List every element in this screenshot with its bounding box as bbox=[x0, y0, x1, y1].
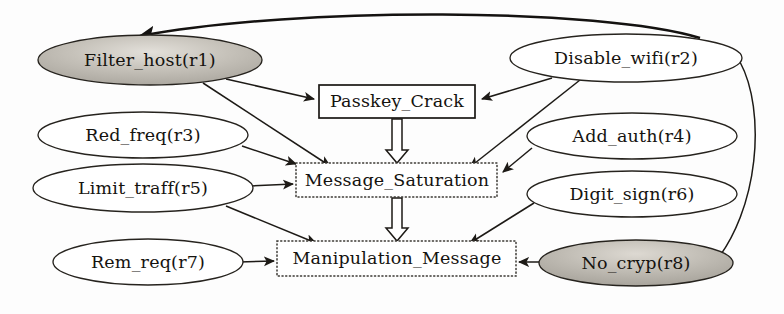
edge-message-saturation-to-manipulation-message bbox=[386, 198, 408, 241]
node-label-r5: Limit_traff(r5) bbox=[78, 178, 208, 198]
node-label-manipulation-message: Manipulation_Message bbox=[292, 248, 501, 268]
node-label-r4: Add_auth(r4) bbox=[571, 126, 691, 146]
edge-r4-to-message-saturation bbox=[503, 148, 532, 172]
edge-r1-to-passkey-crack bbox=[226, 79, 314, 99]
node-add-auth-r4[interactable]: Add_auth(r4) bbox=[527, 113, 737, 159]
node-rem-req-r7[interactable]: Rem_req(r7) bbox=[53, 239, 243, 285]
edge-r6-to-manipulation-message bbox=[470, 203, 534, 243]
node-filter-host-r1[interactable]: Filter_host(r1) bbox=[38, 35, 262, 85]
node-label-r6: Digit_sign(r6) bbox=[569, 184, 694, 204]
node-label-r7: Rem_req(r7) bbox=[91, 252, 205, 272]
node-label-message-saturation: Message_Saturation bbox=[305, 170, 490, 190]
edge-r7-to-manipulation-message bbox=[239, 261, 274, 262]
node-digit-sign-r6[interactable]: Digit_sign(r6) bbox=[527, 171, 737, 217]
edge-r2-to-passkey-crack bbox=[482, 78, 552, 99]
diagram-canvas: Filter_host(r1) Disable_wifi(r2) Red_fre… bbox=[0, 0, 784, 314]
edge-r2-to-r8 bbox=[712, 62, 755, 266]
node-passkey-crack[interactable]: Passkey_Crack bbox=[319, 85, 475, 118]
node-message-saturation[interactable]: Message_Saturation bbox=[296, 163, 497, 197]
edge-r5-to-manipulation-message bbox=[226, 206, 316, 243]
node-label-r8: No_cryp(r8) bbox=[581, 253, 690, 273]
attack-defense-diagram: Filter_host(r1) Disable_wifi(r2) Red_fre… bbox=[0, 0, 784, 314]
edge-r3-to-message-saturation bbox=[242, 146, 296, 164]
edge-passkey-crack-to-message-saturation bbox=[386, 119, 408, 163]
node-disable-wifi-r2[interactable]: Disable_wifi(r2) bbox=[510, 34, 742, 82]
node-limit-traff-r5[interactable]: Limit_traff(r5) bbox=[33, 164, 253, 212]
node-manipulation-message[interactable]: Manipulation_Message bbox=[277, 241, 516, 276]
node-label-passkey-crack: Passkey_Crack bbox=[330, 91, 464, 111]
edge-r5-to-message-saturation bbox=[250, 184, 293, 186]
node-no-cryp-r8[interactable]: No_cryp(r8) bbox=[539, 240, 733, 286]
node-red-freq-r3[interactable]: Red_freq(r3) bbox=[38, 112, 248, 158]
node-label-r1: Filter_host(r1) bbox=[84, 50, 216, 70]
node-label-r3: Red_freq(r3) bbox=[85, 125, 200, 145]
node-label-r2: Disable_wifi(r2) bbox=[554, 48, 698, 68]
